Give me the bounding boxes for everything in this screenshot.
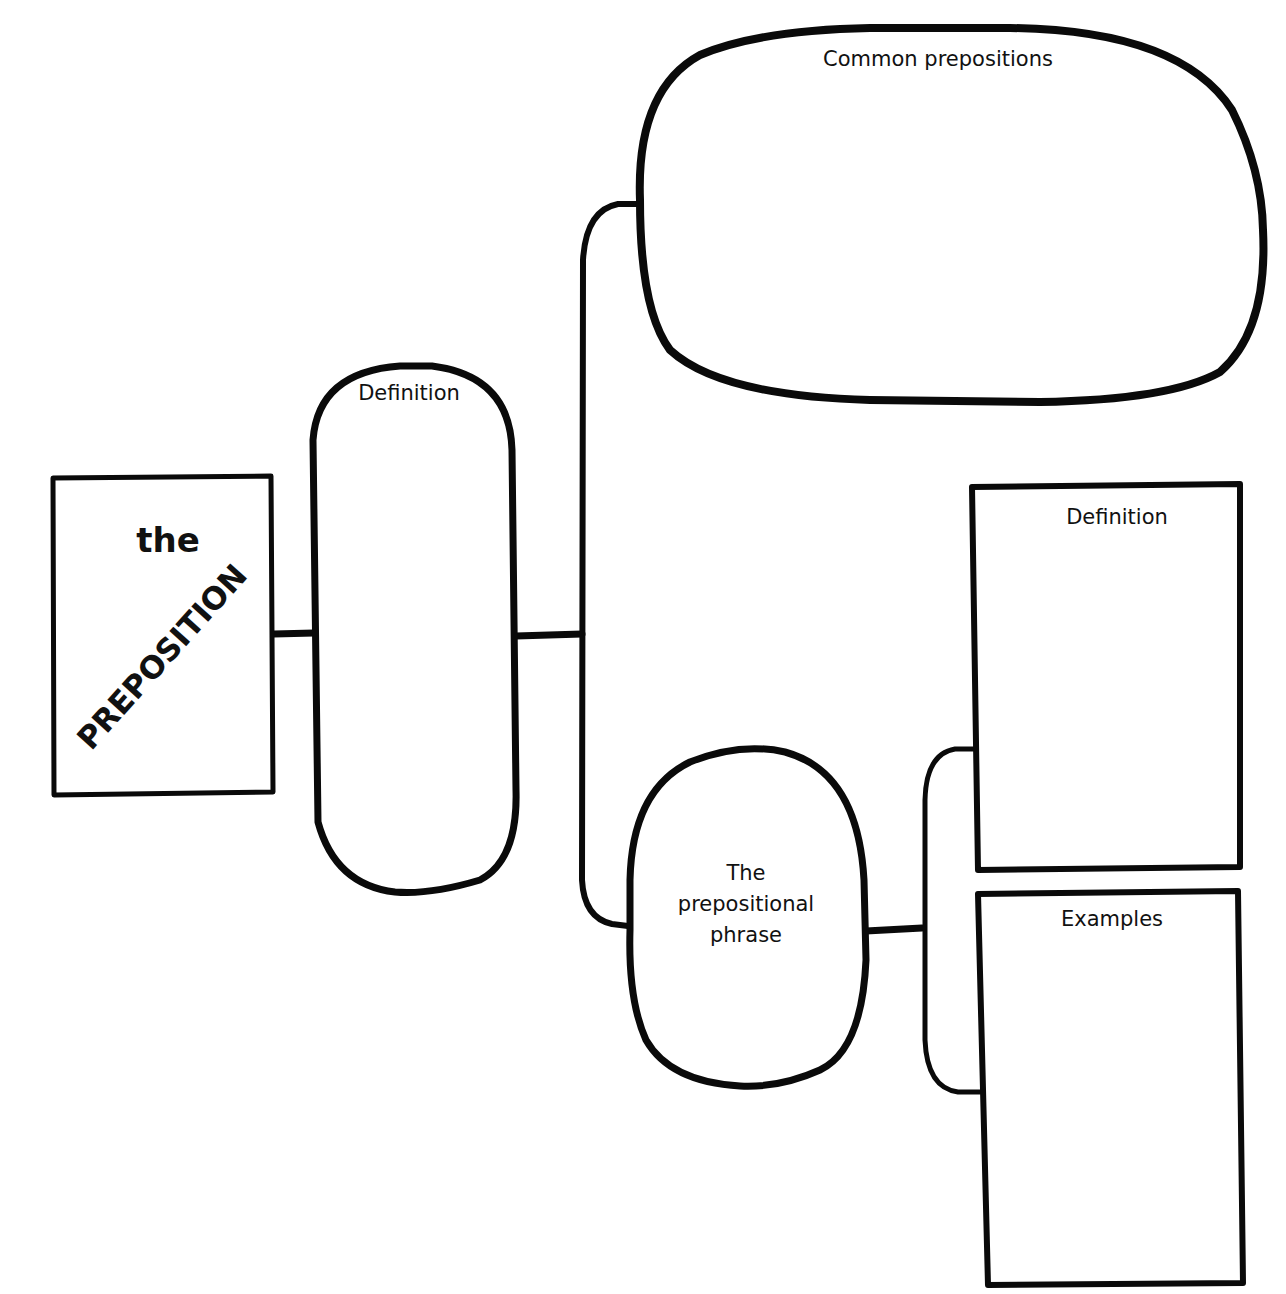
prepositional-phrase-label-line3: phrase: [710, 923, 782, 947]
connector-main-to-definition: [274, 633, 314, 634]
common-prepositions-label: Common prepositions: [823, 47, 1053, 71]
definition-writing-area[interactable]: [330, 415, 500, 865]
definition-label: Definition: [358, 381, 460, 405]
prepositional-phrase-oval: [630, 749, 866, 1087]
main-topic-the-label: the: [136, 520, 200, 560]
phrase-examples-label: Examples: [1061, 907, 1163, 931]
main-topic-preposition-label: PREPOSITION: [70, 557, 254, 756]
connector-right-bracket: [925, 749, 980, 1092]
prepositional-phrase-label-line1: The: [725, 861, 765, 885]
phrase-examples-writing-area[interactable]: [995, 945, 1230, 1270]
phrase-definition-label: Definition: [1066, 505, 1168, 529]
phrase-definition-writing-area[interactable]: [985, 540, 1230, 855]
connector-trunk: [582, 204, 638, 926]
common-prepositions-writing-area[interactable]: [665, 85, 1245, 380]
connector-definition-to-trunk: [516, 634, 582, 636]
connector-phrase-to-bracket: [866, 928, 922, 931]
prepositional-phrase-label-line2: prepositional: [678, 892, 814, 916]
